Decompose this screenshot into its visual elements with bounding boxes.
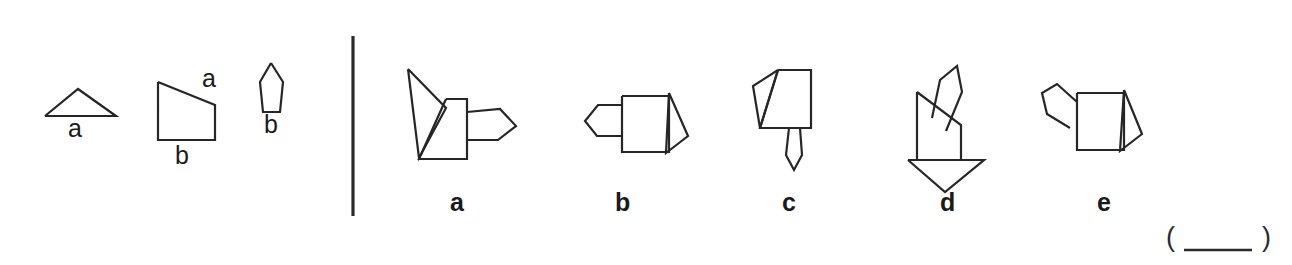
answer-close-paren: )	[1262, 224, 1271, 251]
option-d-label[interactable]: d	[940, 190, 955, 215]
question-canvas: aabbabcde()	[0, 0, 1292, 265]
ref-trapezoid-label-bottom: b	[175, 143, 189, 168]
answer-open-paren: (	[1166, 224, 1175, 251]
option-c-label[interactable]: c	[782, 190, 796, 215]
option-b-label[interactable]: b	[615, 190, 630, 215]
ref-triangle-label: a	[68, 116, 82, 141]
option-a-label[interactable]: a	[450, 190, 464, 215]
option-e-label[interactable]: e	[1097, 190, 1111, 215]
figure-text-layer: aabbabcde()	[0, 0, 1292, 265]
ref-pentagon-label: b	[264, 112, 278, 137]
ref-trapezoid-label-top: a	[202, 66, 216, 91]
